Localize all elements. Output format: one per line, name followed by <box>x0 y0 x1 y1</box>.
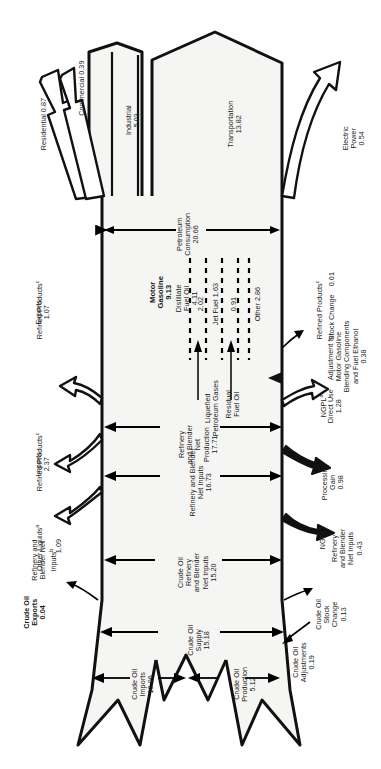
petroleum-flow-diagram: Residential 0.87 Commercial 0.39 Industr… <box>0 0 381 769</box>
crude-oil-exports-arrow <box>66 581 98 600</box>
label-jet-fuel: Jet Fuel 1.63 <box>212 268 220 340</box>
label-lpg-value: 2.02 <box>197 284 205 324</box>
label-refined-products-exports-value: Exports 1.07 <box>35 272 51 352</box>
label-crude-oil-adjustments: Crude Oil Adjustments 0.19 <box>292 616 317 708</box>
label-crude-oil-production: Crude Oil Production 5.12 <box>233 641 258 727</box>
label-residual-fuel-oil: Residual Fuel Oil <box>225 373 241 435</box>
label-crude-oil-exports: Crude Oil Exports 0.04 <box>23 567 48 657</box>
label-other-liquids-value: 1.09 <box>55 511 63 581</box>
crude-oil-stock-change-arrow <box>284 588 313 600</box>
label-electric-power: Electric Power 0.54 <box>342 88 367 188</box>
refined-products-imports-arrow <box>55 434 102 472</box>
label-transportation: Transportation 13.82 <box>227 59 243 189</box>
footnote-d-ngpl-refinery: d <box>317 527 323 530</box>
label-crude-oil-imports: Crude Oil Imports 10.06 <box>131 643 156 725</box>
label-crude-oil-stock-change: Crude Oil Stock Change 0.13 <box>315 572 348 656</box>
label-crude-oil-supply: Crude Oil Supply 15.18 <box>187 599 212 681</box>
label-residential: Residential 0.87 <box>40 76 48 172</box>
label-petroleum-consumption: Petroleum Consumption 20.66 <box>176 194 201 274</box>
label-refinery-net-inputs: Refinery and Blender Net Inputs 16.73 <box>189 436 214 528</box>
label-commercial: Commercial 0.39 <box>78 40 86 136</box>
refined-products-exports-arrow <box>60 377 102 404</box>
stock-change-arrow <box>282 330 304 348</box>
label-industrial: Industrial 5.03 <box>125 65 141 175</box>
label-residual-value: 0.91 <box>230 284 238 324</box>
footnote-c-stock-change: c <box>314 281 320 284</box>
refined-products-stock-text: Refined Products <box>315 283 324 339</box>
label-ngpl-direct-use-value: Direct Use 1.28 <box>327 371 343 441</box>
label-motor-gasoline: Motor Gasoline 9.13 <box>149 256 174 328</box>
ngpl-refinery-text: NGPL <box>318 529 327 549</box>
label-other-products: Other 2.86 <box>254 268 262 340</box>
label-refined-products-imports-value: Imports 2.37 <box>35 424 51 504</box>
footnote-d-ngpl-direct: d <box>318 395 324 398</box>
